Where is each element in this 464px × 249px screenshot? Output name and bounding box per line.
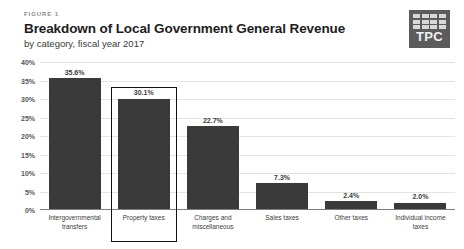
x-axis-label: Other taxes bbox=[321, 214, 382, 223]
gridline bbox=[40, 81, 455, 82]
y-axis-tick-label: 35% bbox=[21, 77, 35, 84]
bar-value-label: 30.1% bbox=[134, 89, 154, 96]
x-axis-category-labels: Intergovernmental transfersProperty taxe… bbox=[40, 214, 455, 244]
bar-value-label: 2.4% bbox=[343, 192, 359, 199]
y-axis-tick-label: 25% bbox=[21, 114, 35, 121]
x-axis-label: Individual income taxes bbox=[390, 214, 451, 231]
x-axis-line bbox=[40, 209, 455, 211]
x-axis-label: Intergovernmental transfers bbox=[44, 214, 105, 231]
gridline bbox=[40, 173, 455, 174]
bar-value-label: 35.6% bbox=[65, 69, 85, 76]
y-axis-tick-label: 5% bbox=[25, 188, 35, 195]
page-title: Breakdown of Local Government General Re… bbox=[24, 21, 394, 36]
tpc-logo: TPC bbox=[409, 10, 450, 48]
x-axis-label: Charges and miscellaneous bbox=[182, 214, 243, 231]
bar-column[interactable]: 35.6% bbox=[49, 69, 101, 210]
figure-subtitle: by category, fiscal year 2017 bbox=[24, 37, 394, 50]
y-axis-tick-label: 10% bbox=[21, 170, 35, 177]
x-axis-label: Property taxes bbox=[113, 214, 174, 223]
gridline bbox=[40, 136, 455, 137]
y-axis-tick-label: 40% bbox=[21, 59, 35, 66]
y-axis-tick-label: 30% bbox=[21, 96, 35, 103]
bar-column[interactable]: 7.3% bbox=[256, 174, 308, 211]
figure-header: FIGURE 1 Breakdown of Local Government G… bbox=[24, 10, 394, 50]
y-axis-tick-label: 0% bbox=[25, 207, 35, 214]
gridline bbox=[40, 62, 455, 63]
bar[interactable] bbox=[187, 126, 239, 210]
bar-column[interactable]: 2.0% bbox=[394, 193, 446, 210]
bar-value-label: 7.3% bbox=[274, 174, 290, 181]
y-axis-tick-label: 15% bbox=[21, 151, 35, 158]
bar-column[interactable]: 2.4% bbox=[325, 192, 377, 210]
gridline bbox=[40, 192, 455, 193]
bar-column[interactable]: 22.7% bbox=[187, 117, 239, 210]
tpc-grid-icon bbox=[413, 14, 446, 29]
gridline bbox=[40, 155, 455, 156]
figure-container: FIGURE 1 Breakdown of Local Government G… bbox=[0, 0, 464, 249]
bar-chart-plot-area: 0%5%10%15%20%25%30%35%40% 35.6%30.1%22.7… bbox=[40, 62, 455, 210]
figure-number-label: FIGURE 1 bbox=[24, 10, 394, 19]
bar[interactable] bbox=[256, 183, 308, 210]
gridline bbox=[40, 118, 455, 119]
bar[interactable] bbox=[118, 99, 170, 210]
tpc-logo-text: TPC bbox=[416, 30, 443, 44]
gridline bbox=[40, 99, 455, 100]
bar[interactable] bbox=[49, 78, 101, 210]
y-axis-tick-label: 20% bbox=[21, 133, 35, 140]
x-axis-label: Sales taxes bbox=[252, 214, 313, 223]
bar-value-label: 2.0% bbox=[412, 193, 428, 200]
bar-value-label: 22.7% bbox=[203, 117, 223, 124]
bar-column[interactable]: 30.1% bbox=[118, 89, 170, 210]
